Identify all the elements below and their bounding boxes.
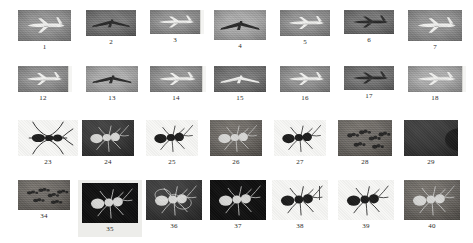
thumbnail[interactable]: [214, 66, 266, 92]
thumbnail[interactable]: [404, 180, 460, 220]
thumbnail[interactable]: [82, 120, 134, 156]
result-item-caption: 12: [18, 94, 68, 103]
result-item-27[interactable]: 27: [274, 120, 326, 167]
thumbnail-image: [82, 120, 134, 156]
thumbnail[interactable]: [86, 10, 136, 36]
thumbnail-edge-strip: [202, 66, 206, 92]
result-item-29[interactable]: 29: [404, 120, 458, 167]
thumbnail-edge-strip: [462, 66, 466, 92]
thumbnail[interactable]: [146, 180, 202, 220]
result-item-caption: 18: [408, 94, 462, 103]
result-item-caption: 3: [150, 36, 200, 45]
thumbnail-image: [214, 10, 266, 40]
thumbnail[interactable]: [274, 120, 326, 156]
result-item-7[interactable]: 7: [408, 10, 462, 52]
result-item-40[interactable]: 40: [404, 180, 460, 231]
thumbnail[interactable]: [150, 10, 200, 34]
result-item-3[interactable]: 3: [150, 10, 200, 45]
result-item-caption: 27: [274, 158, 326, 167]
image-results-grid: 1234567121314151617182324252627282934353…: [0, 0, 473, 243]
result-item-caption: 17: [344, 92, 394, 101]
result-item-caption: 13: [86, 94, 138, 103]
result-item-caption: 4: [214, 42, 266, 51]
result-item-24[interactable]: 24: [82, 120, 134, 167]
result-item-caption: 23: [18, 158, 78, 167]
thumbnail-image: [338, 120, 392, 156]
result-item-37[interactable]: 37: [210, 180, 266, 231]
result-item-26[interactable]: 26: [210, 120, 262, 167]
thumbnail-edge-strip: [68, 66, 72, 92]
result-item-36[interactable]: 36: [146, 180, 202, 231]
result-item-25[interactable]: 25: [146, 120, 198, 167]
thumbnail-image: [18, 66, 68, 92]
result-item-28[interactable]: 28: [338, 120, 392, 167]
thumbnail[interactable]: [408, 10, 462, 41]
result-item-14[interactable]: 14: [150, 66, 202, 103]
thumbnail-image: [280, 66, 330, 92]
result-item-39[interactable]: 39: [338, 180, 394, 231]
result-item-12[interactable]: 12: [18, 66, 68, 103]
thumbnail-image: [408, 66, 462, 92]
result-item-caption: 16: [280, 94, 330, 103]
thumbnail-image: [150, 66, 202, 92]
thumbnail-image: [86, 66, 138, 92]
result-item-6[interactable]: 6: [344, 10, 394, 45]
thumbnail[interactable]: [18, 120, 78, 156]
result-item-16[interactable]: 16: [280, 66, 330, 103]
result-item-caption: 38: [272, 222, 328, 231]
result-item-5[interactable]: 5: [280, 10, 330, 47]
result-item-caption: 37: [210, 222, 266, 231]
thumbnail-image: [146, 120, 198, 156]
result-item-caption: 39: [338, 222, 394, 231]
thumbnail-image: [146, 180, 202, 220]
thumbnail[interactable]: [150, 66, 202, 92]
thumbnail[interactable]: [210, 120, 262, 156]
thumbnail-image: [338, 180, 394, 220]
thumbnail-image: [150, 10, 200, 34]
thumbnail[interactable]: [344, 66, 394, 90]
result-item-13[interactable]: 13: [86, 66, 138, 103]
thumbnail-image: [214, 66, 266, 92]
thumbnail[interactable]: [86, 66, 138, 92]
result-item-2[interactable]: 2: [86, 10, 136, 47]
result-item-23[interactable]: 23: [18, 120, 78, 167]
thumbnail[interactable]: [338, 120, 392, 156]
thumbnail[interactable]: [82, 183, 138, 223]
result-item-4[interactable]: 4: [214, 10, 266, 51]
thumbnail[interactable]: [272, 180, 328, 220]
result-item-caption: 26: [210, 158, 262, 167]
thumbnail[interactable]: [280, 66, 330, 92]
result-item-caption: 7: [408, 43, 462, 52]
thumbnail-image: [18, 180, 70, 210]
thumbnail-image: [18, 10, 71, 41]
result-item-18[interactable]: 18: [408, 66, 462, 103]
thumbnail-image: [210, 120, 262, 156]
thumbnail[interactable]: [338, 180, 394, 220]
thumbnail[interactable]: [344, 10, 394, 34]
thumbnail-image: [404, 120, 458, 156]
thumbnail[interactable]: [404, 120, 458, 156]
thumbnail[interactable]: [18, 10, 71, 41]
result-item-34[interactable]: 34: [18, 180, 70, 221]
thumbnail[interactable]: [214, 10, 266, 40]
result-item-caption: 40: [404, 222, 460, 231]
thumbnail[interactable]: [280, 10, 330, 36]
thumbnail-image: [86, 10, 136, 36]
thumbnail[interactable]: [210, 180, 266, 220]
thumbnail-edge-strip: [200, 10, 204, 34]
result-item-17[interactable]: 17: [344, 66, 394, 101]
result-item-38[interactable]: 38: [272, 180, 328, 231]
result-item-caption: 1: [18, 43, 71, 52]
result-item-caption: 24: [82, 158, 134, 167]
thumbnail[interactable]: [18, 66, 68, 92]
result-item-1[interactable]: 1: [18, 10, 71, 52]
result-item-caption: 28: [338, 158, 392, 167]
thumbnail-image: [408, 10, 462, 41]
thumbnail-image: [210, 180, 266, 220]
thumbnail[interactable]: [408, 66, 462, 92]
thumbnail[interactable]: [146, 120, 198, 156]
thumbnail-image: [82, 183, 138, 223]
result-item-35[interactable]: 35: [78, 180, 142, 237]
result-item-15[interactable]: 15: [214, 66, 266, 103]
thumbnail[interactable]: [18, 180, 70, 210]
